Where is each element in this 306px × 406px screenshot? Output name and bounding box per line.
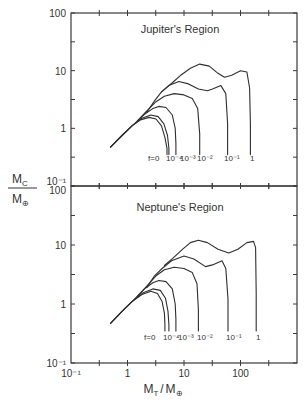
axis-ticks: [71, 10, 297, 366]
x-tick-label: 100: [232, 368, 249, 379]
bottom-curve-labels: f=0 10⁻⁴ 10⁻³ 10⁻² 10⁻¹ 1: [144, 333, 261, 342]
axis-tick-labels: 10010110⁻¹10010110⁻¹10⁻¹110100: [47, 8, 250, 379]
curve-f-1e-2: [137, 267, 198, 331]
label-f1e-1: 10⁻¹: [224, 154, 240, 163]
curve-f-1: [162, 64, 251, 155]
y-tick-label: 10: [55, 66, 67, 77]
curve-f-1e-1: [147, 256, 228, 331]
y-tick-label: 1: [60, 123, 66, 134]
y-label-numerator: MC: [12, 172, 28, 188]
x-tick-label: 10: [178, 368, 190, 379]
top-panel-curves: [111, 64, 251, 155]
x-axis-label: MT/M⊕: [143, 382, 182, 398]
label-f0: f=0: [144, 333, 156, 342]
top-panel-title: Jupiter's Region: [141, 23, 220, 35]
y-tick-label: 100: [49, 8, 66, 19]
y-axis-label: MC M⊕: [8, 172, 37, 208]
label-f1: 1: [256, 333, 261, 342]
y-label-denominator: M⊕: [12, 192, 29, 208]
label-f1e-1: 10⁻¹: [226, 333, 242, 342]
curve-f-0: [111, 117, 168, 154]
bottom-panel-title: Neptune's Region: [136, 201, 223, 213]
top-curve-labels: f=0 10⁻⁴ 10⁻³ 10⁻² 10⁻¹ 1: [148, 154, 255, 163]
y-tick-label: 100: [49, 185, 66, 196]
chart-figure: 10010110⁻¹10010110⁻¹10⁻¹110100 Jupiter's…: [0, 0, 306, 406]
curve-f-1: [164, 240, 256, 331]
x-tick-label: 10⁻¹: [61, 368, 81, 379]
x-tick-label: 1: [125, 368, 131, 379]
label-f1: 1: [250, 154, 255, 163]
y-tick-label: 10: [55, 240, 67, 251]
bottom-panel-curves: [111, 240, 257, 331]
label-f1e-2: 10⁻²: [197, 154, 213, 163]
curve-f-1e-4: [111, 289, 169, 331]
label-f0: f=0: [148, 154, 160, 163]
label-f1e-3: 10⁻³: [178, 333, 194, 342]
y-tick-label: 1: [60, 299, 66, 310]
label-f1e-2: 10⁻²: [197, 333, 213, 342]
curve-f-1e-3: [111, 281, 176, 331]
label-f1e-3: 10⁻³: [180, 154, 196, 163]
